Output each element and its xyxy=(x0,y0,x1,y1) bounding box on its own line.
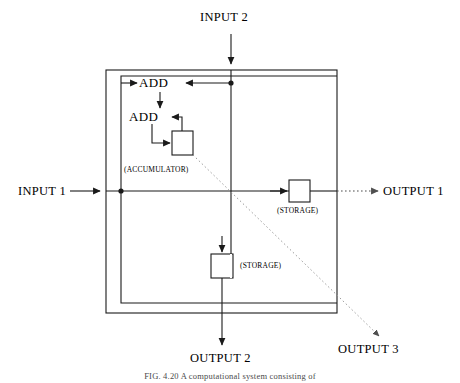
output-3-label: OUTPUT 3 xyxy=(338,343,399,356)
accumulator-feedback-line xyxy=(172,117,182,131)
storage-box-right xyxy=(289,180,310,202)
add-lower-to-accumulator-line xyxy=(152,124,170,143)
output-1-label: OUTPUT 1 xyxy=(383,185,444,198)
accumulator-label: (ACCUMULATOR) xyxy=(124,166,189,174)
add-lower-label: ADD xyxy=(129,110,158,123)
figure-caption: FIG. 4.20 A computational system consist… xyxy=(0,371,460,383)
output-2-label: OUTPUT 2 xyxy=(190,352,251,365)
storage-bottom-label: (STORAGE) xyxy=(240,262,281,270)
input-2-label: INPUT 2 xyxy=(200,11,248,24)
output3-dotted-diagonal xyxy=(193,155,379,336)
add-upper-label: ADD xyxy=(139,76,168,89)
storage-box-bottom xyxy=(211,254,233,278)
input-1-label: INPUT 1 xyxy=(18,185,66,198)
figure-container: INPUT 1 INPUT 2 OUTPUT 1 OUTPUT 2 OUTPUT… xyxy=(0,0,460,383)
accumulator-box xyxy=(172,131,193,155)
storage-right-label: (STORAGE) xyxy=(277,207,318,215)
